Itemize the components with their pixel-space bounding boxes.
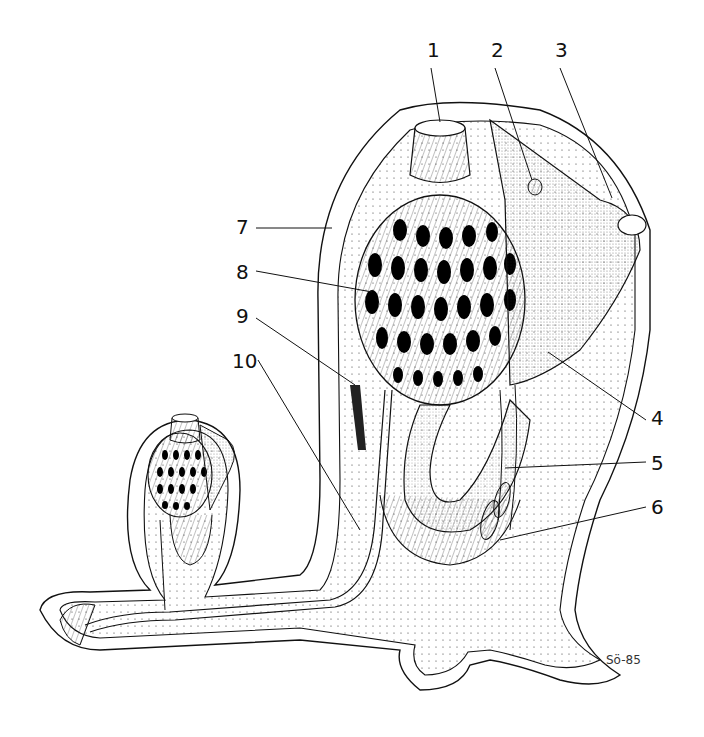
label-2: 2 [491, 40, 504, 60]
label-10: 10 [232, 351, 257, 371]
label-4: 4 [651, 408, 664, 428]
label-5: 5 [651, 453, 664, 473]
label-9: 9 [236, 306, 249, 326]
label-6: 6 [651, 497, 664, 517]
label-3: 3 [555, 40, 568, 60]
label-7: 7 [236, 217, 249, 237]
label-8: 8 [236, 262, 249, 282]
label-1: 1 [427, 40, 440, 60]
ascidian-drawing [0, 0, 704, 737]
artist-signature: Sö-85 [606, 653, 641, 667]
figure-canvas: 1 2 3 4 5 6 7 8 9 10 Sö-85 [0, 0, 704, 737]
